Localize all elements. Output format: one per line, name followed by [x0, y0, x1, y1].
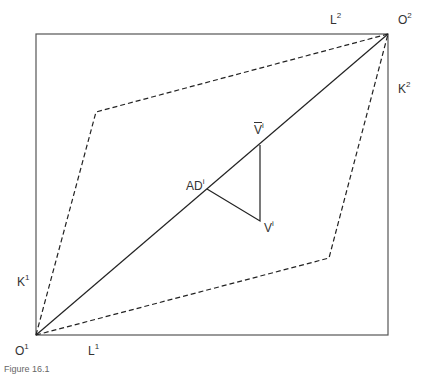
label-AD: ADi	[186, 180, 204, 192]
label-O2: O2	[398, 14, 412, 26]
label-L1: L1	[88, 345, 99, 357]
label-K1: K1	[17, 276, 29, 288]
label-K2: K2	[398, 83, 410, 95]
contract-diagonal	[36, 34, 388, 335]
label-V: Vi	[264, 222, 274, 234]
label-O1: O1	[15, 345, 29, 357]
figure-caption: Figure 16.1	[4, 364, 50, 374]
label-L2: L2	[330, 14, 341, 26]
label-Vbar: Vi	[254, 124, 264, 136]
adjustment-triangle	[207, 145, 260, 221]
